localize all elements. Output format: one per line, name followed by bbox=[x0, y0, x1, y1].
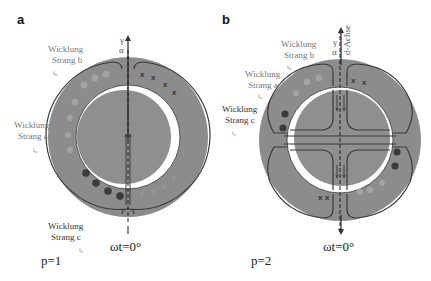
svg-text:x: x bbox=[325, 193, 330, 202]
svg-text:ia: ia bbox=[258, 92, 263, 100]
svg-text:ib: ib bbox=[287, 63, 292, 71]
svg-text:x: x bbox=[162, 183, 166, 190]
svg-text:ic: ic bbox=[232, 129, 237, 137]
svg-text:Wicklung: Wicklung bbox=[14, 120, 50, 130]
svg-text:x: x bbox=[151, 188, 155, 195]
svg-text:Wicklung: Wicklung bbox=[281, 39, 317, 49]
winding-label-c-b: Wicklung Strang c ic bbox=[222, 104, 258, 137]
svg-text:Wicklung: Wicklung bbox=[48, 44, 84, 54]
svg-text:x: x bbox=[151, 73, 156, 82]
svg-text:Strang c: Strang c bbox=[225, 115, 255, 125]
gamma-label-b: γ bbox=[332, 37, 337, 47]
winding-label-a-a: Wicklung Strang a ia bbox=[14, 120, 50, 154]
svg-text:Wicklung: Wicklung bbox=[245, 69, 281, 79]
angle-label-a: ωt=0° bbox=[110, 239, 141, 254]
pole-pairs-label-b: p=2 bbox=[251, 253, 271, 268]
panel-letter-a: a bbox=[17, 12, 25, 27]
svg-text:x: x bbox=[172, 174, 176, 181]
svg-text:ib: ib bbox=[53, 69, 58, 77]
d-axis-label-b: d-Achse bbox=[342, 25, 352, 55]
svg-text:ic: ic bbox=[79, 246, 84, 254]
svg-text:x: x bbox=[140, 190, 144, 197]
gamma-label-a: γ bbox=[119, 35, 124, 45]
svg-text:Strang a: Strang a bbox=[248, 80, 278, 90]
svg-text:x: x bbox=[163, 80, 168, 89]
machine-field-diagram: a x x x x x x x x bbox=[0, 0, 431, 281]
svg-text:Wicklung: Wicklung bbox=[222, 104, 258, 114]
svg-text:Wicklung: Wicklung bbox=[48, 221, 84, 231]
angle-label-b: ωt=0° bbox=[323, 239, 354, 254]
svg-text:x: x bbox=[362, 78, 367, 87]
svg-text:x: x bbox=[318, 193, 323, 202]
panel-a: a x x x x x x x x bbox=[14, 12, 210, 268]
rotor-a bbox=[77, 90, 171, 184]
svg-text:x: x bbox=[140, 70, 145, 79]
winding-label-c-a: Wicklung Strang c ic bbox=[48, 221, 84, 254]
panel-letter-b: b bbox=[222, 12, 230, 27]
svg-text:Strang b: Strang b bbox=[52, 55, 83, 65]
svg-text:Strang a: Strang a bbox=[18, 131, 48, 141]
rotor-b bbox=[294, 90, 390, 186]
winding-label-b-a: Wicklung Strang b ib bbox=[48, 44, 84, 77]
alpha-label-b: α bbox=[332, 47, 337, 57]
pole-pairs-label-a: p=1 bbox=[41, 253, 61, 268]
panel-b: b x x bbox=[222, 12, 421, 268]
alpha-label-a: α bbox=[119, 45, 124, 55]
svg-text:Strang c: Strang c bbox=[51, 232, 81, 242]
svg-text:x: x bbox=[351, 76, 356, 85]
svg-text:ia: ia bbox=[33, 146, 38, 154]
svg-text:Strang b: Strang b bbox=[284, 50, 315, 60]
svg-text:x: x bbox=[172, 88, 177, 97]
